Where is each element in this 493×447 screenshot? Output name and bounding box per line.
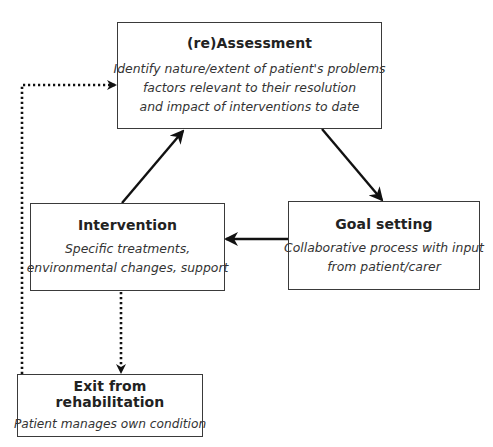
exit-description-line: Patient manages own condition — [14, 415, 206, 434]
goal-setting-title: Goal setting — [335, 216, 432, 232]
intervention-node: Intervention Specific treatments, enviro… — [30, 203, 225, 291]
assessment-description: Identify nature/extent of patient's prob… — [114, 59, 386, 116]
intervention-description-line: Specific treatments, — [27, 239, 229, 258]
assessment-description-line: and impact of interventions to date — [114, 97, 386, 116]
rehabilitation-cycle-diagram: (re)Assessment Identify nature/extent of… — [0, 0, 493, 447]
assessment-node: (re)Assessment Identify nature/extent of… — [117, 22, 382, 129]
intervention-description-line: environmental changes, support — [27, 258, 229, 277]
assessment-title: (re)Assessment — [187, 35, 312, 51]
goal-setting-node: Goal setting Collaborative process with … — [288, 201, 480, 290]
goal-setting-description-line: Collaborative process with input — [284, 238, 484, 257]
intervention-description: Specific treatments, environmental chang… — [27, 239, 229, 277]
exit-title: Exit from rehabilitation — [18, 378, 202, 410]
intervention-title: Intervention — [78, 217, 177, 233]
exit-description: Patient manages own condition — [14, 415, 206, 434]
goal-setting-description-line: from patient/carer — [284, 257, 484, 276]
assessment-description-line: factors relevant to their resolution — [114, 78, 386, 97]
goal-setting-description: Collaborative process with input from pa… — [284, 238, 484, 276]
exit-node: Exit from rehabilitation Patient manages… — [17, 374, 203, 437]
arrow-assessment-to-goal-setting — [322, 129, 382, 200]
arrow-intervention-to-assessment — [122, 131, 183, 203]
assessment-description-line: Identify nature/extent of patient's prob… — [114, 59, 386, 78]
